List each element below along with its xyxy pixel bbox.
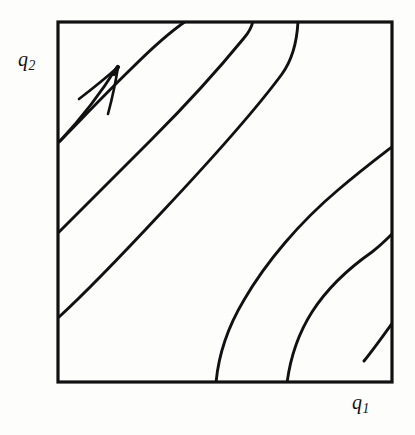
contour-6 bbox=[364, 322, 393, 361]
contour-figure-svg bbox=[0, 0, 415, 435]
y-axis-label-subscript: 2 bbox=[29, 58, 36, 73]
x-axis-label-subscript: 1 bbox=[363, 401, 370, 416]
contour-figure: q2 q1 bbox=[0, 0, 415, 435]
contour-2 bbox=[59, 21, 253, 232]
y-axis-label: q2 bbox=[18, 49, 35, 72]
gradient-direction-arrow-shaft bbox=[60, 67, 117, 141]
y-axis-label-text: q bbox=[18, 48, 28, 70]
x-axis-label: q1 bbox=[352, 392, 369, 415]
contour-4 bbox=[216, 146, 393, 383]
x-axis-label-text: q bbox=[352, 391, 362, 413]
contour-5 bbox=[287, 233, 393, 383]
